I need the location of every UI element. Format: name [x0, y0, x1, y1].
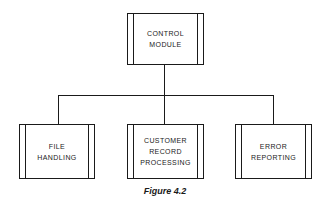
connector-to-customer — [164, 95, 165, 124]
error-reporting-label: ERROR REPORTING — [251, 141, 296, 163]
customer-record-processing-label: CUSTOMER RECORD PROCESSING — [140, 135, 191, 168]
control-module-box: CONTROL MODULE — [127, 13, 204, 65]
connector-root-down — [164, 64, 165, 95]
connector-horizontal-bar — [58, 95, 274, 96]
customer-record-processing-box: CUSTOMER RECORD PROCESSING — [127, 124, 204, 179]
error-reporting-box: ERROR REPORTING — [235, 124, 312, 179]
figure-caption: Figure 4.2 — [0, 186, 330, 196]
control-module-label: CONTROL MODULE — [147, 28, 184, 50]
connector-to-error — [273, 95, 274, 124]
file-handling-box: FILE HANDLING — [19, 124, 95, 179]
file-handling-label: FILE HANDLING — [37, 141, 76, 163]
connector-to-file — [58, 95, 59, 124]
